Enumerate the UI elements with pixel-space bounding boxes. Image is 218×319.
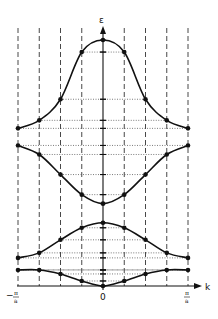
tick-label-zero: 0 xyxy=(100,292,106,302)
k-axis-arrow-icon xyxy=(194,283,202,289)
band-point xyxy=(143,97,148,102)
band-point xyxy=(16,256,21,261)
band-point xyxy=(16,126,21,131)
svg-text:a: a xyxy=(185,297,189,304)
band-point xyxy=(16,268,21,273)
band-point xyxy=(164,152,169,157)
band-point xyxy=(122,50,127,55)
tick-label-neg-pi-over-a: − π a xyxy=(6,289,19,304)
band-point xyxy=(186,143,191,148)
band-point xyxy=(37,152,42,157)
svg-text:a: a xyxy=(14,297,18,304)
band-point xyxy=(164,251,169,256)
band-point xyxy=(122,279,127,284)
band-point xyxy=(79,279,84,284)
band-point xyxy=(37,251,42,256)
band-point xyxy=(122,192,127,197)
svg-text:−: − xyxy=(6,290,14,300)
band-point xyxy=(122,225,127,230)
band-structure-diagram: ε k − π a 0 π a xyxy=(0,0,218,319)
band-point xyxy=(186,268,191,273)
band-point xyxy=(58,172,63,177)
band-point xyxy=(186,126,191,131)
band-point xyxy=(164,118,169,123)
energy-axis-arrow-icon xyxy=(100,26,106,34)
band-point xyxy=(37,118,42,123)
band-point xyxy=(164,268,169,273)
band-point xyxy=(186,256,191,261)
band-point xyxy=(58,272,63,277)
band-point xyxy=(58,238,63,243)
tick-label-pi-over-a: π a xyxy=(184,289,190,304)
band-point xyxy=(143,238,148,243)
band-point xyxy=(37,268,42,273)
svg-text:π: π xyxy=(185,289,189,296)
band-point xyxy=(79,192,84,197)
svg-text:π: π xyxy=(14,289,18,296)
energy-axis-label: ε xyxy=(99,15,104,25)
band-point xyxy=(16,143,21,148)
band-point xyxy=(79,225,84,230)
k-axis-label: k xyxy=(205,282,211,292)
band-point xyxy=(143,272,148,277)
band-point xyxy=(79,50,84,55)
band-point xyxy=(58,97,63,102)
band-point xyxy=(143,172,148,177)
